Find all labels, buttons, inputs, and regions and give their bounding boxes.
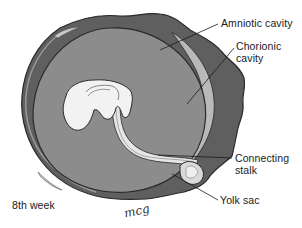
label-week: 8th week	[12, 200, 55, 211]
label-connecting-stalk-2: stalk	[235, 165, 257, 176]
diagram: Amniotic cavity Chorionic cavity Connect…	[0, 0, 302, 228]
label-chorionic-cavity-1: Chorionic	[236, 41, 281, 52]
label-yolk-sac: Yolk sac	[220, 195, 260, 206]
label-amniotic-cavity: Amniotic cavity	[221, 18, 293, 29]
label-chorionic-cavity-2: cavity	[236, 53, 263, 64]
label-connecting-stalk-1: Connecting	[235, 153, 289, 164]
